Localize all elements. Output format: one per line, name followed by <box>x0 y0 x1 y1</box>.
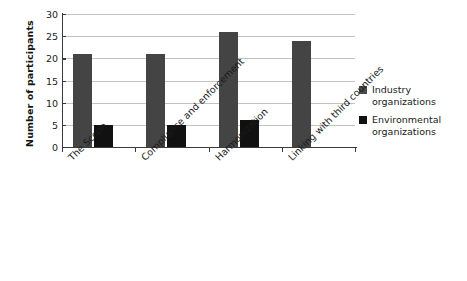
legend-label-industry: Industry organizations <box>372 84 436 107</box>
legend-label-industry-line1: Industry <box>372 84 411 95</box>
x-axis-tick-mark <box>282 147 283 152</box>
x-axis-tick-mark <box>135 147 136 152</box>
y-axis-tick-mark <box>62 125 66 126</box>
bar-industry <box>219 32 238 147</box>
legend-item-environmental: Environmental organizations <box>359 114 467 137</box>
y-axis-tick-label: 10 <box>36 97 58 108</box>
y-axis-tick-mark <box>62 14 66 15</box>
legend-swatch-icon-environmental <box>359 116 367 124</box>
y-axis-tick-mark <box>62 81 66 82</box>
gridline <box>62 36 355 37</box>
y-axis-tick-label: 0 <box>36 142 58 153</box>
y-axis-tick-label: 5 <box>36 119 58 130</box>
y-axis-tick-label: 15 <box>36 75 58 86</box>
y-axis-tick-mark <box>62 36 66 37</box>
y-axis-tick-label: 20 <box>36 53 58 64</box>
y-axis-tick-mark <box>62 103 66 104</box>
legend-label-industry-line2: organizations <box>372 96 436 107</box>
x-axis-tick-mark <box>355 147 356 152</box>
chart-legend: Industry organizations Environmental org… <box>359 84 467 144</box>
x-axis-tick-mark <box>209 147 210 152</box>
y-axis-tick-mark <box>62 58 66 59</box>
legend-label-environmental: Environmental organizations <box>372 114 441 137</box>
legend-label-environmental-line2: organizations <box>372 126 436 137</box>
bar-chart-figure: Number of participants 302520151050 Indu… <box>0 0 467 281</box>
gridline <box>62 14 355 15</box>
y-axis-tick-label: 30 <box>36 9 58 20</box>
legend-label-environmental-line1: Environmental <box>372 114 441 125</box>
legend-item-industry: Industry organizations <box>359 84 467 107</box>
x-axis-tick-mark <box>62 147 63 152</box>
y-axis-tick-labels: 302520151050 <box>33 14 58 147</box>
y-axis-tick-label: 25 <box>36 31 58 42</box>
